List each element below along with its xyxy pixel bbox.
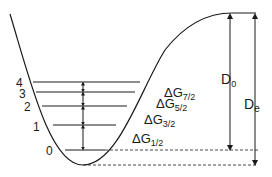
d0-label: D0 <box>221 71 236 89</box>
de-label: De <box>244 96 260 114</box>
dg-3-2-label: ΔG3/2 <box>144 112 175 129</box>
level-label-2: 2 <box>24 100 31 114</box>
diagram-canvas: 4 3 2 1 0 ΔG7/2 ΔG5/2 ΔG3/2 ΔG1/2 D0 De <box>0 0 272 177</box>
level-label-0: 0 <box>46 144 53 158</box>
level-label-3: 3 <box>19 87 26 101</box>
level-label-1: 1 <box>33 120 40 134</box>
level-labels: 4 3 2 1 0 <box>16 76 53 158</box>
dg-1-2-label: ΔG1/2 <box>132 131 163 148</box>
morse-potential-diagram: 4 3 2 1 0 ΔG7/2 ΔG5/2 ΔG3/2 ΔG1/2 D0 De <box>0 0 272 177</box>
energy-labels: D0 De <box>221 71 260 114</box>
vibrational-levels <box>33 82 140 150</box>
